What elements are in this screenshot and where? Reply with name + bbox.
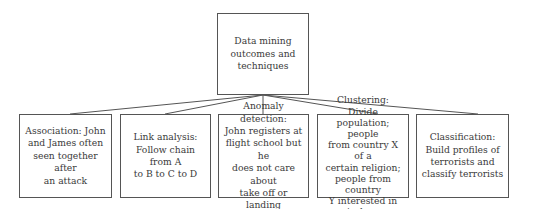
node-label-line: people from country <box>322 173 404 195</box>
node-label-line: Y interested in <box>322 195 404 206</box>
root-label-line: outcomes and <box>231 48 296 60</box>
node-label-line: terrorists and <box>422 156 503 168</box>
node-label-line: certain religion; <box>322 162 404 173</box>
node-label-line: an attack <box>24 175 107 187</box>
node-label-line: and James often <box>24 137 107 149</box>
node-label-line: Classification: <box>422 131 503 143</box>
node-label-line: Build profiles of <box>422 144 503 156</box>
node-label-line: to B to C to D <box>125 168 206 180</box>
node-label-line: seen together after <box>24 150 107 175</box>
node-label-line: take off or landing <box>223 187 304 209</box>
node-label-line: from country X of a <box>322 139 404 161</box>
node-label-line: John registers at <box>223 125 304 137</box>
node-label-line: airplanes <box>322 206 404 209</box>
node-label-line: population; people <box>322 117 404 139</box>
node-clustering: Clustering: Divide population; people fr… <box>317 114 409 198</box>
node-label-line: classify terrorists <box>422 168 503 180</box>
node-label-line: flight school but he <box>223 137 304 162</box>
node-label-line: Anomaly detection: <box>223 100 304 125</box>
node-anomaly-detection: Anomaly detection: John registers at fli… <box>218 114 309 198</box>
node-association: Association: John and James often seen t… <box>19 114 112 198</box>
node-label-line: Clustering: Divide <box>322 94 404 116</box>
node-link-analysis: Link analysis: Follow chain from A to B … <box>120 114 211 198</box>
node-label-line: Follow chain from A <box>125 144 206 169</box>
root-label-line: Data mining <box>231 35 296 47</box>
node-label-line: does not care about <box>223 162 304 187</box>
root-label-line: techniques <box>231 60 296 72</box>
node-classification: Classification: Build profiles of terror… <box>416 114 509 198</box>
root-node-data-mining: Data mining outcomes and techniques <box>217 13 309 95</box>
node-label-line: Association: John <box>24 125 107 137</box>
node-label-line: Link analysis: <box>125 131 206 143</box>
